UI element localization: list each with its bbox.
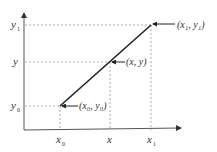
point-label-x1y1: (x₁, y₁) bbox=[177, 19, 205, 31]
x-axis bbox=[24, 128, 181, 130]
svg-text:y: y bbox=[12, 55, 18, 67]
x-tick-x1: x 1 bbox=[146, 133, 156, 147]
x-tick-x0: x 0 bbox=[55, 133, 65, 147]
svg-text:x: x bbox=[146, 133, 152, 145]
svg-text:1: 1 bbox=[17, 26, 20, 32]
svg-text:x: x bbox=[55, 133, 61, 145]
point-label-xy: (x, y) bbox=[126, 56, 147, 68]
svg-text:x: x bbox=[106, 133, 112, 145]
y-tick-y0: y 0 bbox=[10, 99, 20, 113]
svg-text:0: 0 bbox=[62, 141, 65, 147]
svg-text:1: 1 bbox=[153, 141, 156, 147]
x-tick-x: x bbox=[106, 133, 112, 145]
svg-text:y: y bbox=[10, 18, 16, 30]
svg-text:0: 0 bbox=[17, 107, 20, 113]
interpolation-diagram: (x₁, y₁) (x, y) (x₀, y₀) y 1 y y 0 x 0 x… bbox=[0, 0, 217, 152]
y-tick-y: y bbox=[12, 55, 18, 67]
y-tick-y1: y 1 bbox=[10, 18, 20, 32]
point-label-x0y0: (x₀, y₀) bbox=[79, 100, 107, 112]
svg-text:y: y bbox=[10, 99, 16, 111]
guide-lines bbox=[25, 25, 151, 130]
